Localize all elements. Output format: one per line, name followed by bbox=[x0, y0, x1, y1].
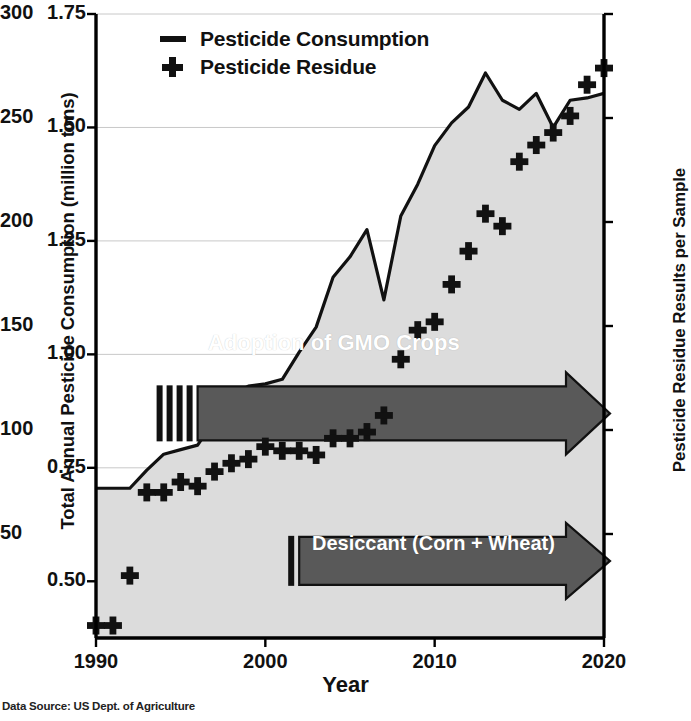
y-right-tick-label: 250 bbox=[0, 105, 60, 128]
line-swatch-icon bbox=[160, 36, 186, 42]
annotation-label-gmo: Adoption of GMO Crops bbox=[208, 330, 460, 356]
y-right-tick-label: 100 bbox=[0, 417, 60, 440]
legend-label-residue: Pesticide Residue bbox=[200, 55, 376, 79]
x-tick-label: 1990 bbox=[51, 650, 141, 673]
x-tick-label: 2010 bbox=[390, 650, 480, 673]
y-axis-left-title: Total Annual Pesticide Consumption (mill… bbox=[57, 1, 79, 621]
y-axis-right-title: Pesticide Residue Results per Sample bbox=[670, 20, 690, 620]
pesticide-chart-figure: Adoption of GMO Crops Desiccant (Corn + … bbox=[0, 0, 691, 721]
legend-item-residue: Pesticide Residue bbox=[160, 54, 429, 80]
x-tick-label: 2000 bbox=[220, 650, 310, 673]
y-right-tick-label: 200 bbox=[0, 209, 60, 232]
x-tick-label: 2020 bbox=[559, 650, 649, 673]
source-note: Data Source: US Dept. of Agriculture bbox=[2, 700, 195, 712]
y-right-tick-label: 50 bbox=[0, 521, 60, 544]
legend-label-consumption: Pesticide Consumption bbox=[200, 27, 429, 51]
y-right-tick-label: 150 bbox=[0, 313, 60, 336]
plus-swatch-icon bbox=[160, 56, 186, 78]
y-right-tick-label: 300 bbox=[0, 1, 60, 24]
annotation-label-desiccant: Desiccant (Corn + Wheat) bbox=[312, 532, 555, 555]
legend-item-consumption: Pesticide Consumption bbox=[160, 26, 429, 52]
chart-canvas bbox=[0, 0, 691, 721]
chart-legend: Pesticide Consumption Pesticide Residue bbox=[160, 26, 429, 82]
x-axis-title: Year bbox=[0, 672, 691, 698]
